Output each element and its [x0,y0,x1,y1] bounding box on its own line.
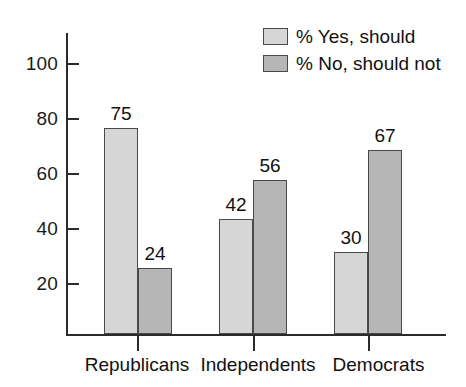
bar-republicans-no [138,268,172,334]
x-axis-tick-republicans [137,336,139,351]
y-axis-label-40: 40 [14,219,58,238]
bar-value-democrats-no: 67 [360,126,410,146]
legend-swatch-yes-icon [263,28,288,45]
y-axis-tick-20 [68,283,79,285]
bar-democrats-yes [334,252,368,334]
chart-legend: % Yes, should % No, should not [263,24,441,78]
bar-value-independents-no: 56 [245,156,295,176]
y-axis-label-100: 100 [14,54,58,73]
y-axis-tick-40 [68,228,79,230]
x-axis-tick-independents [253,336,255,351]
y-axis-tick-60 [68,173,79,175]
legend-swatch-no-icon [263,55,288,72]
x-axis-tick-democrats [368,336,370,351]
y-axis-label-80: 80 [14,109,58,128]
bar-independents-yes [219,219,253,334]
bar-democrats-no [368,150,402,334]
bar-value-republicans-no: 24 [130,244,180,264]
bar-chart: 100 80 60 40 20 75 24 42 56 30 67 Republ… [0,0,466,387]
y-axis-line [66,33,68,336]
bar-republicans-yes [104,128,138,334]
bar-value-republicans-yes: 75 [96,104,146,124]
bar-independents-no [253,180,287,334]
x-axis-label-independents: Independents [190,354,326,376]
x-axis-label-republicans: Republicans [72,354,202,376]
y-axis-label-20: 20 [14,274,58,293]
y-axis-label-60: 60 [14,164,58,183]
y-axis-tick-80 [68,118,79,120]
legend-item-no: % No, should not [263,51,441,76]
x-axis-label-democrats: Democrats [316,354,441,376]
legend-label-no: % No, should not [296,54,441,74]
x-axis-line [66,334,446,336]
y-axis-tick-100 [68,63,79,65]
legend-label-yes: % Yes, should [296,27,415,47]
legend-item-yes: % Yes, should [263,24,441,49]
